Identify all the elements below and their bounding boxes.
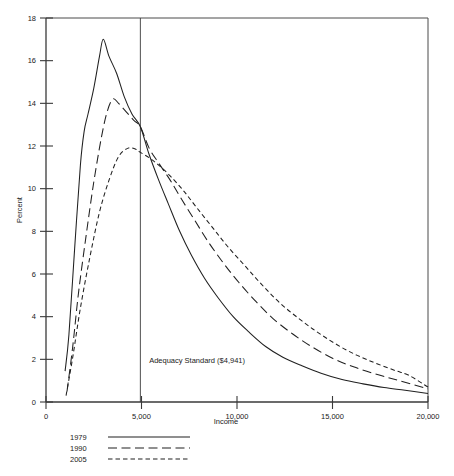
chart-legend: 197919902005 <box>70 433 190 464</box>
annotation-group: Adequacy Standard ($4,941) <box>140 18 245 402</box>
x-tick-label: 15,000 <box>321 412 344 421</box>
x-tick-label: 20,000 <box>417 412 440 421</box>
legend-label-1979: 1979 <box>70 433 87 442</box>
y-tick-label: 2 <box>32 355 36 364</box>
legend-label-2005: 2005 <box>70 455 87 464</box>
y-tick-label: 8 <box>32 227 36 236</box>
x-tick-group: 05,00010,00015,00020,000 <box>44 396 440 421</box>
y-tick-label: 6 <box>32 270 36 279</box>
chart-canvas: 024681012141618 05,00010,00015,00020,000… <box>0 0 454 476</box>
series-group <box>65 39 428 395</box>
x-tick-label: 5,000 <box>132 412 151 421</box>
y-tick-label: 18 <box>28 14 36 23</box>
y-tick-label: 4 <box>32 312 36 321</box>
x-axis-title: Income <box>214 417 239 426</box>
series-line-1979 <box>65 39 428 393</box>
x-tick-label: 0 <box>44 412 48 421</box>
adequacy-standard-label: Adequacy Standard ($4,941) <box>149 356 245 365</box>
legend-label-1990: 1990 <box>70 444 87 453</box>
y-tick-label: 16 <box>28 56 36 65</box>
series-line-2005 <box>66 148 428 396</box>
plot-frame <box>46 18 428 402</box>
y-tick-label: 12 <box>28 142 36 151</box>
y-tick-group: 024681012141618 <box>28 14 53 407</box>
series-line-1990 <box>67 99 428 392</box>
y-tick-label: 10 <box>28 184 36 193</box>
chart-figure: 024681012141618 05,00010,00015,00020,000… <box>0 0 454 476</box>
y-tick-label: 14 <box>28 99 36 108</box>
y-tick-label: 0 <box>32 398 36 407</box>
y-axis-title: Percent <box>15 196 24 223</box>
